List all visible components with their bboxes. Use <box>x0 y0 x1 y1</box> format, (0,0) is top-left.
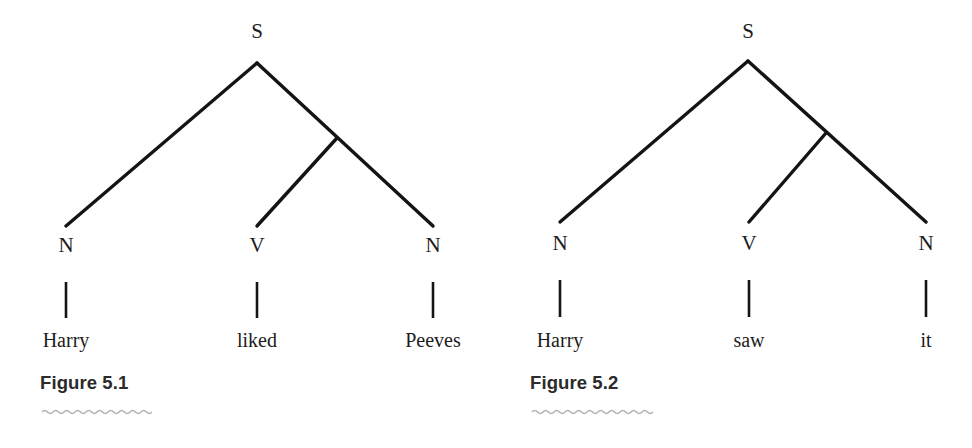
caption-squiggle-underline <box>42 410 152 413</box>
branch-s-to-right-n <box>748 61 926 222</box>
tree-stems-2 <box>560 280 926 317</box>
leaf-word-saw: saw <box>733 329 765 351</box>
node-label-n-right: N <box>425 233 440 257</box>
node-label-n-left: N <box>552 231 567 255</box>
leaf-word-peeves: Peeves <box>405 329 461 351</box>
figure-caption-2: Figure 5.2 <box>530 372 618 394</box>
leaf-word-harry: Harry <box>43 329 90 352</box>
tree-stems-1 <box>66 282 433 318</box>
leaf-word-harry: Harry <box>537 329 584 352</box>
branch-s-to-left-n <box>66 63 257 226</box>
node-label-s: S <box>742 19 754 43</box>
leaf-word-it: it <box>920 329 932 351</box>
figure-panel-1: S N V N Harry liked Peeves Figure 5.1 <box>0 0 486 448</box>
figure-caption-1: Figure 5.1 <box>40 372 128 394</box>
node-label-v: V <box>249 233 264 257</box>
tree-branches-1 <box>66 63 433 226</box>
tree-branches-2 <box>560 61 926 222</box>
branch-vp-to-v <box>257 138 337 226</box>
node-label-n-right: N <box>918 231 933 255</box>
node-label-v: V <box>741 231 756 255</box>
node-label-s: S <box>251 19 263 43</box>
branch-vp-to-v <box>749 133 826 222</box>
leaf-word-liked: liked <box>237 329 277 351</box>
figure-panel-2: S N V N Harry saw it Figure 5.2 <box>486 0 972 448</box>
branch-s-to-left-n <box>560 61 748 222</box>
caption-squiggle-underline <box>532 410 653 413</box>
branch-s-to-right-n <box>257 63 433 226</box>
node-label-n-left: N <box>58 233 73 257</box>
